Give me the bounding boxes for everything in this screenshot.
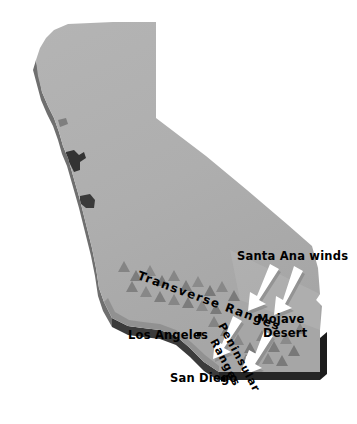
label-mojave-desert-line2: Desert xyxy=(263,328,307,340)
label-los-angeles: Los Angeles xyxy=(128,330,208,342)
label-santa-ana-winds: Santa Ana winds xyxy=(237,251,348,263)
label-mojave-desert-line1: Mojave xyxy=(257,314,305,326)
map-graphic xyxy=(0,0,357,424)
base-edge-east xyxy=(320,332,327,380)
california-map: Santa Ana winds Transverse Ranges Penins… xyxy=(0,0,357,424)
label-san-diego: San Diego xyxy=(170,373,237,385)
